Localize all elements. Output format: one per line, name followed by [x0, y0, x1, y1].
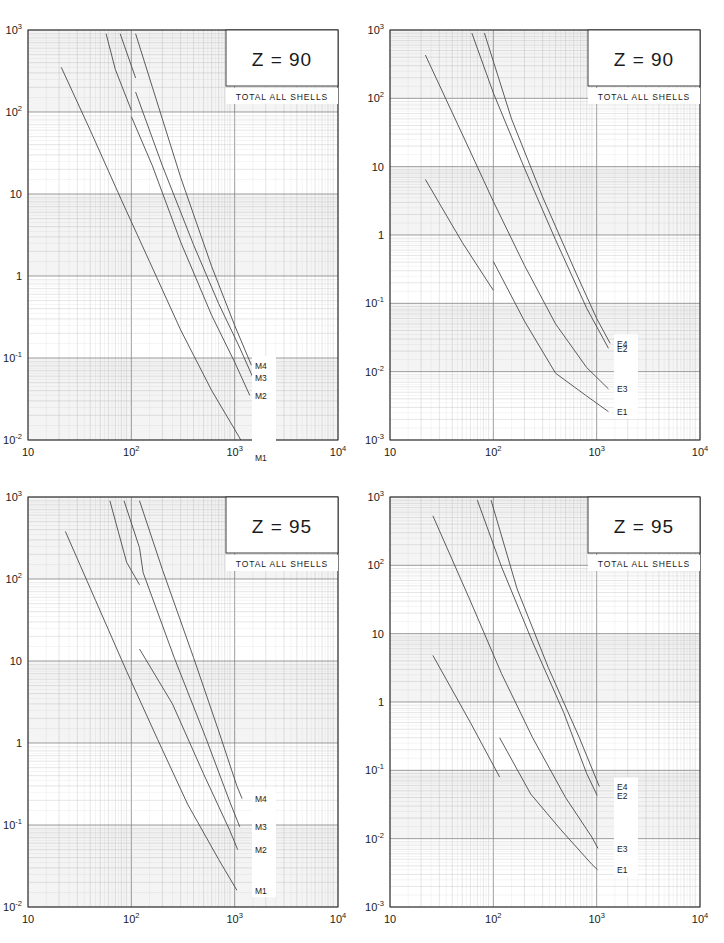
plot-panel-bottom-right: Z = 95TOTAL ALL SHELLSE4E3E2E11010210310…: [362, 472, 724, 943]
panel-subtitle: TOTAL ALL SHELLS: [598, 92, 690, 102]
plot-svg-top-right: Z = 90TOTAL ALL SHELLSE4E3E2E11010210310…: [362, 0, 724, 472]
y-tick-label: 103: [368, 22, 384, 36]
curve-label-M2: M2: [255, 845, 267, 855]
curve-label-E1: E1: [617, 865, 628, 875]
plot-svg-bottom-right: Z = 95TOTAL ALL SHELLSE4E3E2E11010210310…: [362, 472, 724, 943]
curve-label-strip: [252, 790, 276, 898]
plot-svg-top-left: Z = 90TOTAL ALL SHELLSM4M3M2M11010210310…: [0, 0, 362, 472]
y-tick-label: 10-1: [365, 762, 384, 776]
panel-subtitle: TOTAL ALL SHELLS: [236, 92, 328, 102]
y-tick-label: 10-2: [365, 364, 384, 378]
y-tick-label: 1: [378, 229, 384, 241]
panel-title: Z = 90: [252, 49, 312, 70]
y-tick-label: 103: [6, 22, 22, 36]
y-tick-label: 102: [6, 104, 22, 118]
x-tick-label: 104: [330, 911, 346, 925]
curve-label-M3: M3: [255, 373, 267, 383]
x-tick-label: 102: [123, 911, 139, 925]
y-tick-label: 10: [10, 188, 22, 200]
curve-label-E2: E2: [617, 791, 628, 801]
y-tick-label: 10: [372, 161, 384, 173]
curve-label-M4: M4: [255, 361, 267, 371]
x-tick-label: 102: [123, 444, 139, 458]
plot-svg-bottom-left: Z = 95TOTAL ALL SHELLSM4M3M2M11010210310…: [0, 472, 362, 943]
x-tick-label: 104: [692, 444, 708, 458]
x-tick-label: 103: [588, 911, 604, 925]
y-tick-label: 10-3: [365, 432, 384, 446]
curve-label-M1: M1: [255, 886, 267, 896]
y-tick-label: 1: [16, 737, 22, 749]
curve-label-M4: M4: [255, 794, 267, 804]
x-tick-label: 10: [384, 913, 396, 925]
y-tick-label: 102: [6, 571, 22, 585]
x-tick-label: 104: [330, 444, 346, 458]
y-tick-label: 10-1: [365, 295, 384, 309]
panel-title: Z = 90: [614, 49, 674, 70]
y-tick-label: 10-2: [365, 831, 384, 845]
y-tick-label: 102: [368, 557, 384, 571]
curve-label-E1: E1: [617, 407, 628, 417]
curve-label-M1: M1: [255, 453, 267, 463]
x-tick-label: 102: [485, 911, 501, 925]
x-tick-label: 103: [226, 444, 242, 458]
curve-label-E2: E2: [617, 344, 628, 354]
y-tick-label: 10-3: [365, 899, 384, 913]
x-tick-label: 104: [692, 911, 708, 925]
y-tick-label: 103: [368, 489, 384, 503]
panel-title: Z = 95: [252, 516, 312, 537]
x-tick-label: 103: [588, 444, 604, 458]
y-tick-label: 1: [378, 696, 384, 708]
y-tick-label: 10-2: [3, 899, 22, 913]
curve-label-E3: E3: [617, 844, 628, 854]
panel-title: Z = 95: [614, 516, 674, 537]
x-tick-label: 10: [22, 446, 34, 458]
panel-subtitle: TOTAL ALL SHELLS: [598, 559, 690, 569]
y-tick-label: 10: [372, 628, 384, 640]
y-tick-label: 10-1: [3, 817, 22, 831]
y-tick-label: 102: [368, 90, 384, 104]
y-tick-label: 10-1: [3, 350, 22, 364]
plot-panel-bottom-left: Z = 95TOTAL ALL SHELLSM4M3M2M11010210310…: [0, 472, 362, 943]
y-tick-label: 103: [6, 489, 22, 503]
x-tick-label: 10: [22, 913, 34, 925]
y-tick-label: 10: [10, 655, 22, 667]
y-tick-label: 10-2: [3, 432, 22, 446]
panel-subtitle: TOTAL ALL SHELLS: [236, 559, 328, 569]
x-tick-label: 103: [226, 911, 242, 925]
x-tick-label: 102: [485, 444, 501, 458]
plot-panel-top-left: Z = 90TOTAL ALL SHELLSM4M3M2M11010210310…: [0, 0, 362, 472]
figure-root: Z = 90TOTAL ALL SHELLSM4M3M2M11010210310…: [0, 0, 724, 943]
y-tick-label: 1: [16, 270, 22, 282]
plot-panel-top-right: Z = 90TOTAL ALL SHELLSE4E3E2E11010210310…: [362, 0, 724, 472]
curve-label-M3: M3: [255, 822, 267, 832]
curve-label-M2: M2: [255, 391, 267, 401]
x-tick-label: 10: [384, 446, 396, 458]
curve-label-E3: E3: [617, 384, 628, 394]
